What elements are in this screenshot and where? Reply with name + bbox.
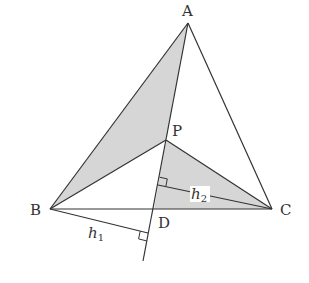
geometry-figure: A B C P D h1 h2 <box>0 0 309 283</box>
label-c: C <box>280 201 291 219</box>
height-h1 <box>50 209 148 233</box>
label-h1: h1 <box>88 224 104 243</box>
shaded-triangle-pdc <box>154 140 272 209</box>
label-p: P <box>172 122 182 140</box>
label-a: A <box>181 2 193 20</box>
diagram-stage: A B C P D h1 h2 <box>0 0 309 283</box>
label-d: D <box>158 214 170 232</box>
label-b: B <box>30 201 41 219</box>
